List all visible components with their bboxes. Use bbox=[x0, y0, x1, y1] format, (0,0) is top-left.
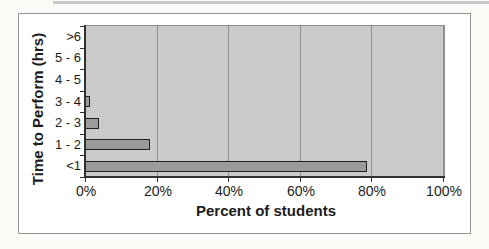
bar bbox=[86, 139, 150, 150]
y-tick bbox=[80, 69, 84, 70]
x-tick bbox=[85, 178, 86, 182]
x-tick-label: 80% bbox=[342, 184, 402, 199]
x-tick-label: 60% bbox=[271, 184, 331, 199]
y-tick bbox=[80, 177, 84, 178]
x-tick bbox=[443, 178, 444, 182]
bar bbox=[86, 118, 99, 129]
gridline bbox=[443, 26, 444, 177]
gridline bbox=[228, 26, 229, 177]
x-tick-label: 0% bbox=[56, 184, 116, 199]
chart-frame: Time to Perform (hrs) Percent of student… bbox=[18, 13, 471, 234]
chart-canvas: { "chart_data": { "type": "bar", "orient… bbox=[0, 0, 489, 249]
x-tick-label: 40% bbox=[199, 184, 259, 199]
y-tick bbox=[80, 26, 84, 27]
y-tick-label: 3 - 4 bbox=[19, 94, 81, 110]
y-tick bbox=[80, 48, 84, 49]
x-tick bbox=[228, 178, 229, 182]
bar bbox=[86, 96, 90, 107]
y-tick-label: 4 - 5 bbox=[19, 72, 81, 88]
y-tick-label: 5 - 6 bbox=[19, 50, 81, 66]
x-tick-label: 100% bbox=[414, 184, 474, 199]
gridline bbox=[157, 26, 158, 177]
y-tick bbox=[80, 112, 84, 113]
y-tick-label: >6 bbox=[19, 29, 81, 45]
plot-area bbox=[85, 25, 445, 178]
y-axis-line bbox=[84, 25, 86, 178]
y-tick-label: 2 - 3 bbox=[19, 115, 81, 131]
y-tick bbox=[80, 155, 84, 156]
y-tick bbox=[80, 134, 84, 135]
x-tick bbox=[371, 178, 372, 182]
y-tick-label: <1 bbox=[19, 158, 81, 174]
scan-artifact-line bbox=[53, 1, 489, 4]
x-tick bbox=[300, 178, 301, 182]
x-tick bbox=[157, 178, 158, 182]
x-axis-title: Percent of students bbox=[86, 202, 446, 220]
y-tick-label: 1 - 2 bbox=[19, 137, 81, 153]
gridline bbox=[300, 26, 301, 177]
x-tick-label: 20% bbox=[128, 184, 188, 199]
y-tick bbox=[80, 91, 84, 92]
gridline bbox=[371, 26, 372, 177]
bar bbox=[86, 161, 367, 172]
x-axis-line bbox=[84, 176, 445, 178]
